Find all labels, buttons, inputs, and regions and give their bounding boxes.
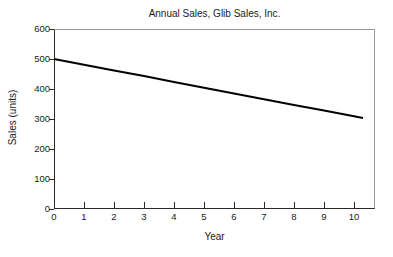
x-tick-label: 8 — [279, 211, 309, 222]
y-tick-mark — [49, 179, 54, 180]
x-tick-mark — [264, 202, 265, 208]
x-tick-mark — [324, 202, 325, 208]
series-line-annual-sales — [54, 59, 363, 118]
y-tick-label: 600 — [2, 24, 50, 34]
plot-area — [54, 29, 375, 209]
x-tick-mark — [204, 202, 205, 208]
y-tick-mark — [49, 209, 54, 210]
x-tick-mark — [354, 202, 355, 208]
y-tick-mark — [49, 89, 54, 90]
chart-title: Annual Sales, Glib Sales, Inc. — [54, 8, 375, 20]
y-tick-label: 500 — [2, 54, 50, 64]
x-tick-mark — [294, 202, 295, 208]
x-tick-mark — [54, 202, 55, 208]
x-tick-mark — [144, 202, 145, 208]
chart-figure: Annual Sales, Glib Sales, Inc. 010020030… — [0, 0, 393, 257]
x-tick-label: 9 — [309, 211, 339, 222]
y-axis-label: Sales (units) — [7, 68, 18, 168]
x-axis-label: Year — [54, 231, 375, 243]
x-tick-label: 4 — [159, 211, 189, 222]
x-tick-mark — [114, 202, 115, 208]
x-tick-mark — [234, 202, 235, 208]
x-tick-label: 6 — [219, 211, 249, 222]
y-tick-mark — [49, 59, 54, 60]
x-tick-mark — [84, 202, 85, 208]
x-tick-label: 2 — [99, 211, 129, 222]
x-tick-label: 5 — [189, 211, 219, 222]
x-tick-label: 1 — [69, 211, 99, 222]
y-tick-label: 100 — [2, 174, 50, 184]
x-tick-label: 7 — [249, 211, 279, 222]
x-tick-label: 0 — [39, 211, 69, 222]
x-tick-label: 10 — [339, 211, 369, 222]
x-tick-mark — [174, 202, 175, 208]
x-tick-label: 3 — [129, 211, 159, 222]
y-tick-mark — [49, 149, 54, 150]
y-tick-mark — [49, 119, 54, 120]
y-tick-mark — [49, 29, 54, 30]
